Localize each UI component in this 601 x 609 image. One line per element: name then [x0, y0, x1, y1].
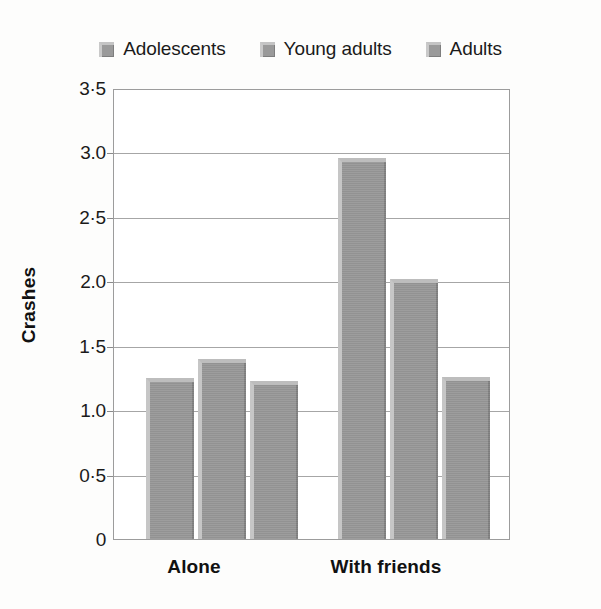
legend-item-young-adults[interactable]: Young adults — [260, 38, 392, 60]
bar-with-friends-adults[interactable] — [442, 377, 490, 539]
plot-area — [113, 89, 510, 540]
bar-group-with-friends — [338, 90, 498, 539]
legend-label-young-adults: Young adults — [284, 38, 392, 60]
y-axis-tick-labels: 3·5 3.0 2·5 2.0 1·5 1.0 0·5 0 — [40, 0, 106, 609]
bar-alone-adults[interactable] — [250, 381, 298, 539]
y-tick-0-5: 0·5 — [46, 465, 106, 487]
y-tick-1-5: 1·5 — [46, 336, 106, 358]
legend-item-adolescents[interactable]: Adolescents — [99, 38, 225, 60]
bar-alone-adolescents[interactable] — [146, 378, 194, 539]
x-tick-label-alone: Alone — [167, 556, 220, 578]
legend-swatch-icon — [260, 42, 275, 57]
y-axis-title-label: Crashes — [18, 266, 40, 342]
legend-item-adults[interactable]: Adults — [426, 38, 502, 60]
y-tick-0: 0 — [46, 529, 106, 551]
y-tick-1-0: 1.0 — [46, 400, 106, 422]
legend-swatch-icon — [426, 42, 441, 57]
y-tick-2-5: 2·5 — [46, 207, 106, 229]
bar-group-alone — [146, 90, 306, 539]
legend-label-adults: Adults — [450, 38, 502, 60]
bar-alone-young-adults[interactable] — [198, 359, 246, 539]
bar-with-friends-young-adults[interactable] — [390, 279, 438, 539]
y-tick-3-0: 3.0 — [46, 142, 106, 164]
chart-figure: Adolescents Young adults Adults Crashes … — [0, 0, 601, 609]
bar-with-friends-adolescents[interactable] — [338, 158, 386, 539]
y-tick-2-0: 2.0 — [46, 271, 106, 293]
legend-label-adolescents: Adolescents — [123, 38, 225, 60]
y-tick-3-5: 3·5 — [46, 78, 106, 100]
x-tick-label-with-friends: With friends — [331, 556, 442, 578]
